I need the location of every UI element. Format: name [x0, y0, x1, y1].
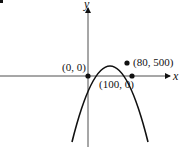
point-80-500-label: (80, 500) [133, 56, 174, 69]
origin-label: (0, 0) [62, 61, 86, 74]
y-axis-label: y [83, 0, 90, 11]
point-100-0-label: (100, 0) [99, 78, 134, 91]
point-80-500 [124, 60, 129, 65]
x-axis-label: x [172, 69, 179, 83]
bullet-mark [0, 0, 3, 3]
point-origin [85, 73, 90, 78]
parabola-diagram: y x (0, 0) (80, 500) (100, 0) [0, 0, 181, 147]
